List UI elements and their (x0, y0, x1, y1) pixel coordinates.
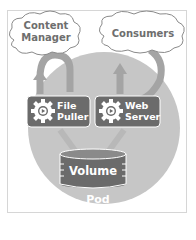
file-puller-label-line2: Puller (57, 111, 89, 122)
file-puller-label-line1: File (57, 100, 89, 111)
content-manager-label-line2: Manager (18, 32, 74, 44)
gear-play-icon (99, 99, 123, 123)
web-server-label-line2: Server (125, 111, 159, 122)
gear-play-icon (31, 99, 55, 123)
arrow-head-icon (33, 70, 47, 80)
web-server-label: Web Server (125, 100, 159, 122)
consumers-label: Consumers (104, 28, 182, 40)
content-manager-label-line1: Content (18, 20, 74, 32)
web-server-label-line1: Web (125, 100, 159, 111)
file-puller-label: File Puller (57, 100, 89, 122)
content-manager-label: Content Manager (18, 20, 74, 44)
pod-label: Pod (78, 193, 118, 206)
volume-label: Volume (60, 164, 126, 178)
